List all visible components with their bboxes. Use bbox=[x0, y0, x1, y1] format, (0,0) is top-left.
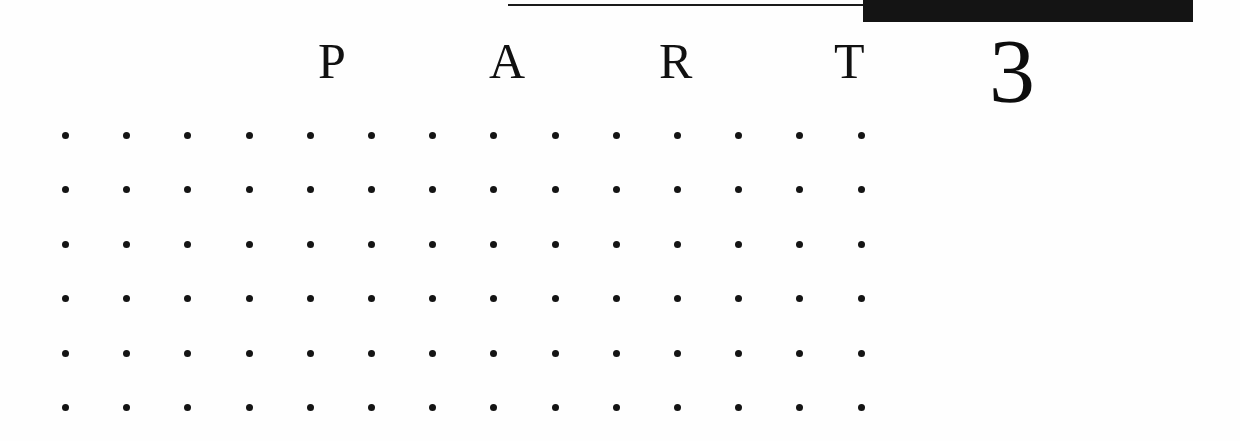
grid-dot bbox=[613, 241, 620, 248]
grid-dot bbox=[429, 241, 436, 248]
grid-dot bbox=[552, 404, 559, 411]
grid-dot bbox=[796, 350, 803, 357]
grid-dot bbox=[246, 350, 253, 357]
grid-dot bbox=[674, 350, 681, 357]
grid-dot bbox=[858, 241, 865, 248]
grid-dot bbox=[674, 404, 681, 411]
grid-dot bbox=[613, 404, 620, 411]
grid-dot bbox=[674, 132, 681, 139]
grid-dot bbox=[796, 132, 803, 139]
grid-dot bbox=[552, 350, 559, 357]
grid-dot bbox=[246, 186, 253, 193]
grid-dot bbox=[490, 241, 497, 248]
grid-dot bbox=[307, 132, 314, 139]
thick-black-bar bbox=[863, 0, 1193, 22]
part-number: 3 bbox=[989, 25, 1035, 117]
grid-dot bbox=[735, 404, 742, 411]
grid-dot bbox=[552, 295, 559, 302]
grid-dot bbox=[552, 132, 559, 139]
grid-dot bbox=[368, 350, 375, 357]
grid-dot bbox=[674, 295, 681, 302]
grid-dot bbox=[858, 295, 865, 302]
grid-dot bbox=[796, 295, 803, 302]
grid-dot bbox=[858, 350, 865, 357]
grid-dot bbox=[429, 186, 436, 193]
grid-dot bbox=[246, 241, 253, 248]
grid-dot bbox=[246, 295, 253, 302]
grid-dot bbox=[858, 404, 865, 411]
grid-dot bbox=[307, 295, 314, 302]
grid-dot bbox=[735, 295, 742, 302]
grid-dot bbox=[246, 404, 253, 411]
grid-dot bbox=[429, 132, 436, 139]
grid-dot bbox=[368, 295, 375, 302]
thin-horizontal-rule bbox=[508, 4, 864, 6]
grid-dot bbox=[62, 132, 69, 139]
grid-dot bbox=[184, 132, 191, 139]
grid-dot bbox=[62, 404, 69, 411]
grid-dot bbox=[613, 295, 620, 302]
grid-dot bbox=[735, 241, 742, 248]
grid-dot bbox=[429, 404, 436, 411]
grid-dot bbox=[62, 350, 69, 357]
grid-dot bbox=[123, 404, 130, 411]
grid-dot bbox=[184, 295, 191, 302]
grid-dot bbox=[613, 132, 620, 139]
grid-dot bbox=[735, 132, 742, 139]
grid-dot bbox=[123, 295, 130, 302]
grid-dot bbox=[184, 186, 191, 193]
part-letter-3: R bbox=[659, 33, 692, 89]
grid-dot bbox=[246, 132, 253, 139]
part-letter-4: T bbox=[834, 33, 865, 89]
grid-dot bbox=[123, 132, 130, 139]
grid-dot bbox=[674, 241, 681, 248]
part-letter-2: A bbox=[489, 33, 525, 89]
grid-dot bbox=[123, 350, 130, 357]
grid-dot bbox=[858, 186, 865, 193]
grid-dot bbox=[429, 295, 436, 302]
grid-dot bbox=[307, 241, 314, 248]
grid-dot bbox=[368, 241, 375, 248]
grid-dot bbox=[429, 350, 436, 357]
grid-dot bbox=[490, 404, 497, 411]
grid-dot bbox=[796, 186, 803, 193]
grid-dot bbox=[552, 241, 559, 248]
grid-dot bbox=[123, 241, 130, 248]
grid-dot bbox=[368, 186, 375, 193]
grid-dot bbox=[613, 186, 620, 193]
grid-dot bbox=[62, 241, 69, 248]
grid-dot bbox=[368, 132, 375, 139]
part-letter-1: P bbox=[318, 33, 346, 89]
grid-dot bbox=[62, 186, 69, 193]
grid-dot bbox=[613, 350, 620, 357]
grid-dot bbox=[490, 186, 497, 193]
grid-dot bbox=[490, 295, 497, 302]
grid-dot bbox=[307, 404, 314, 411]
grid-dot bbox=[307, 350, 314, 357]
grid-dot bbox=[796, 404, 803, 411]
grid-dot bbox=[123, 186, 130, 193]
grid-dot bbox=[552, 186, 559, 193]
grid-dot bbox=[184, 241, 191, 248]
grid-dot bbox=[62, 295, 69, 302]
grid-dot bbox=[674, 186, 681, 193]
part-divider-page: P A R T 3 bbox=[0, 0, 1240, 441]
grid-dot bbox=[184, 404, 191, 411]
grid-dot bbox=[368, 404, 375, 411]
grid-dot bbox=[490, 350, 497, 357]
grid-dot bbox=[184, 350, 191, 357]
grid-dot bbox=[735, 186, 742, 193]
grid-dot bbox=[796, 241, 803, 248]
grid-dot bbox=[858, 132, 865, 139]
grid-dot bbox=[490, 132, 497, 139]
grid-dot bbox=[307, 186, 314, 193]
grid-dot bbox=[735, 350, 742, 357]
part-heading: P A R T bbox=[318, 33, 878, 95]
